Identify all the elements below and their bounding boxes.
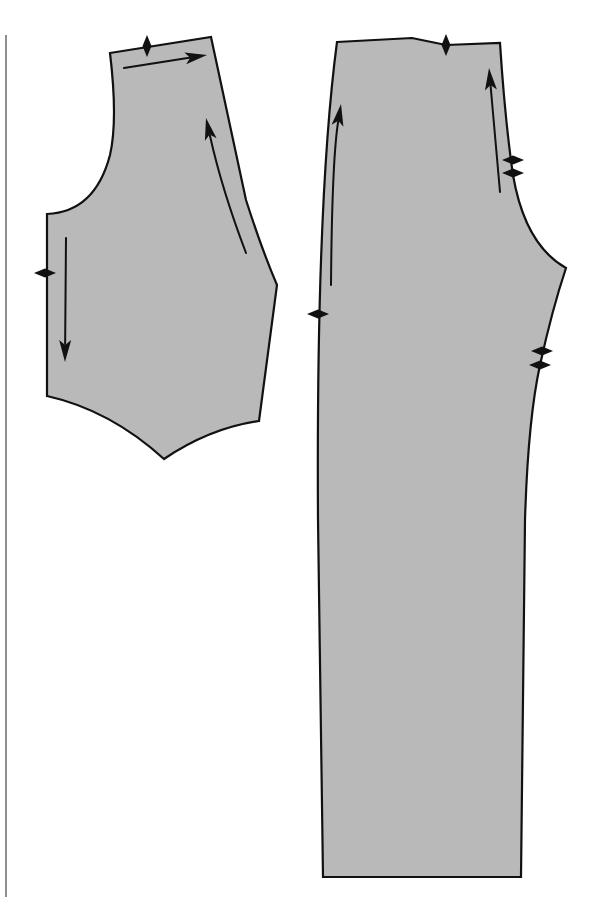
pattern-diagram <box>0 0 602 897</box>
bodice-piece <box>34 35 277 459</box>
bodice-piece-outline <box>47 37 277 459</box>
bodice-piece-grainline-left-line <box>65 238 66 344</box>
trouser-piece-outline <box>318 38 566 877</box>
pattern-pieces <box>34 34 566 877</box>
trouser-piece <box>307 34 566 877</box>
